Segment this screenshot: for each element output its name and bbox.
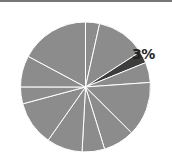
pie-chart <box>0 0 172 163</box>
highlight-slice-label: 3% <box>132 46 155 62</box>
